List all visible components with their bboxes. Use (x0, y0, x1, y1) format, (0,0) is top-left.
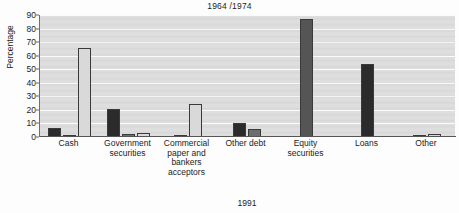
bar-group (276, 15, 337, 137)
bar-group (158, 15, 217, 137)
y-tick-label: 80 (27, 24, 36, 33)
y-tick-mark (36, 69, 39, 70)
y-tick-mark (36, 137, 39, 138)
x-tick-label: Cash (39, 139, 98, 195)
bar-group (40, 15, 99, 137)
bar-group (398, 15, 456, 137)
y-tick-mark (36, 123, 39, 124)
y-tick-mark (36, 109, 39, 110)
bar-group (217, 15, 276, 137)
y-tick-mark (36, 55, 39, 56)
x-tick-label: Equity securities (275, 139, 336, 195)
bar (361, 64, 374, 137)
x-tick-label: Other debt (216, 139, 275, 195)
bar-group (99, 15, 158, 137)
plot-wrapper: 9080706050403020100 (39, 15, 455, 137)
y-axis-label: Percentage (5, 10, 15, 84)
y-tick-label: 70 (27, 38, 36, 47)
bar (107, 109, 120, 137)
y-tick-mark (36, 96, 39, 97)
x-tick-label: Government securities (98, 139, 157, 195)
y-tick-mark (36, 42, 39, 43)
y-tick-label: 90 (27, 11, 36, 20)
x-tick-label: Loans (336, 139, 397, 195)
y-tick-mark (36, 82, 39, 83)
x-axis-line (40, 136, 456, 137)
bar (300, 19, 313, 137)
y-tick-label: 50 (27, 65, 36, 74)
bar (189, 104, 202, 137)
y-tick-label: 60 (27, 51, 36, 60)
y-tick-label: 40 (27, 79, 36, 88)
y-tick-label: 20 (27, 106, 36, 115)
bar (78, 48, 91, 137)
x-tick-label: Other (397, 139, 455, 195)
bar (233, 123, 246, 137)
bottom-caption: 1991 (39, 198, 455, 208)
bar-chart-figure: 1964 /1974 Percentage 908070605040302010… (0, 0, 459, 213)
bar-groups (40, 15, 456, 137)
x-tick-label: Commercial paper and bankers acceptors (157, 139, 216, 195)
y-tick-mark (36, 15, 39, 16)
bar-group (337, 15, 398, 137)
x-axis-tick-labels: CashGovernment securitiesCommercial pape… (39, 139, 455, 195)
y-tick-label: 10 (27, 119, 36, 128)
chart-title: 1964 /1974 (0, 1, 459, 11)
y-tick-mark (36, 28, 39, 29)
plot-area (39, 15, 455, 137)
y-tick-label: 30 (27, 92, 36, 101)
